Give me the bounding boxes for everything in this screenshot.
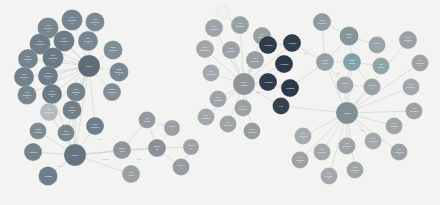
node-circle[interactable] xyxy=(403,79,420,96)
node-circle[interactable] xyxy=(316,53,334,71)
node-circle[interactable] xyxy=(103,83,121,101)
node-circle[interactable] xyxy=(283,34,301,52)
graph-node[interactable]: Pixelannotation xyxy=(231,16,249,34)
graph-node[interactable]: Pixelannotation xyxy=(235,100,252,117)
node-circle[interactable] xyxy=(110,63,129,82)
graph-node[interactable]: Image 2 xyxy=(64,144,86,166)
node-circle[interactable] xyxy=(391,144,408,161)
graph-node[interactable]: Videoannotation12 xyxy=(42,84,62,104)
graph-node[interactable]: Testannotation xyxy=(313,13,331,31)
node-circle[interactable] xyxy=(235,100,252,117)
graph-node[interactable]: Annotation xyxy=(275,55,293,73)
graph-node[interactable]: Videoannotation10 xyxy=(38,66,58,86)
graph-node[interactable]: Videoannotation15 xyxy=(63,101,82,120)
node-circle[interactable] xyxy=(14,67,34,87)
graph-node[interactable]: Sub cell1 xyxy=(164,120,180,136)
node-circle[interactable] xyxy=(314,144,331,161)
graph-node[interactable]: Annotation xyxy=(259,73,277,91)
graph-node[interactable]: Videoannotation11 xyxy=(18,86,37,105)
node-circle[interactable] xyxy=(273,98,290,115)
graph-node[interactable]: Annotation xyxy=(24,143,42,161)
graph-node[interactable]: Sub cell2 xyxy=(337,77,354,94)
node-circle[interactable] xyxy=(203,65,220,82)
graph-node[interactable]: Videoannotation7 xyxy=(18,49,38,69)
graph-node[interactable]: Pixelannotation13 xyxy=(295,128,312,145)
node-circle[interactable] xyxy=(321,168,338,185)
graph-node[interactable]: Pixelannotation7 xyxy=(365,133,382,150)
node-circle[interactable] xyxy=(173,159,190,176)
graph-node[interactable]: Pixelannotation xyxy=(196,40,214,58)
node-circle[interactable] xyxy=(183,139,199,155)
graph-node[interactable]: Sub cell2 xyxy=(173,159,190,176)
graph-node[interactable]: Sub cell1 xyxy=(369,37,386,54)
graph-node[interactable]: Pixelannotation xyxy=(246,51,264,69)
node-circle[interactable] xyxy=(64,144,86,166)
node-circle[interactable] xyxy=(78,55,100,77)
node-circle[interactable] xyxy=(164,120,180,136)
node-circle[interactable] xyxy=(340,27,359,46)
graph-node[interactable]: Sub cell3 xyxy=(183,139,199,155)
graph-node[interactable]: Bucketcount xyxy=(113,141,131,159)
node-circle[interactable] xyxy=(196,40,214,58)
graph-node[interactable]: Annotation xyxy=(281,79,299,97)
graph-node[interactable]: Sub cell3 xyxy=(364,79,381,96)
graph-node[interactable]: Imageannotation2 xyxy=(110,63,129,82)
graph-node[interactable]: Pixelannotation2 xyxy=(412,55,429,72)
node-circle[interactable] xyxy=(399,31,417,49)
node-circle[interactable] xyxy=(38,66,58,86)
graph-node[interactable]: Datasetlist xyxy=(148,139,166,157)
graph-node[interactable]: Annotation xyxy=(259,36,277,54)
node-circle[interactable] xyxy=(67,83,86,102)
graph-node[interactable]: Videoannotation14 xyxy=(40,103,58,121)
node-circle[interactable] xyxy=(343,53,361,71)
node-circle[interactable] xyxy=(369,37,386,54)
graph-node[interactable]: Videoannotation6 xyxy=(78,31,98,51)
node-circle[interactable] xyxy=(86,13,105,32)
graph-node[interactable]: Task orAnnotation xyxy=(233,73,255,95)
graph-node[interactable]: Videoannotation xyxy=(86,117,104,135)
node-circle[interactable] xyxy=(406,103,423,120)
graph-node[interactable]: Videoannotation xyxy=(58,125,75,142)
graph-node[interactable]: Videoannotation2 xyxy=(62,10,83,31)
node-circle[interactable] xyxy=(231,16,249,34)
node-circle[interactable] xyxy=(58,125,75,142)
node-circle[interactable] xyxy=(246,51,264,69)
node-circle[interactable] xyxy=(337,77,354,94)
node-circle[interactable] xyxy=(259,36,277,54)
node-circle[interactable] xyxy=(259,73,277,91)
graph-node[interactable]: Pixelannotation9 xyxy=(314,144,331,161)
node-circle[interactable] xyxy=(336,102,358,124)
node-circle[interactable] xyxy=(198,109,215,126)
graph-node[interactable]: Pixelannotation xyxy=(220,116,237,133)
node-circle[interactable] xyxy=(63,101,82,120)
graph-node[interactable]: Pixelannotation5 xyxy=(386,118,403,135)
graph-node[interactable]: Imageannotation3 xyxy=(103,83,121,101)
graph-node[interactable]: Image 1 xyxy=(78,55,100,77)
node-circle[interactable] xyxy=(220,116,237,133)
graph-node[interactable]: Videoannotation xyxy=(244,123,261,140)
node-circle[interactable] xyxy=(295,128,312,145)
node-circle[interactable] xyxy=(42,84,62,104)
node-circle[interactable] xyxy=(281,79,299,97)
graph-node[interactable]: Videoannotation8 xyxy=(43,48,64,69)
node-circle[interactable] xyxy=(365,133,382,150)
graph-node[interactable]: Pixelannotation10 xyxy=(292,152,309,169)
node-circle[interactable] xyxy=(78,31,98,51)
node-circle[interactable] xyxy=(24,143,42,161)
graph-node[interactable]: Pixelannotation8 xyxy=(339,138,356,155)
graph-node[interactable]: Pixelannotation xyxy=(198,109,215,126)
node-circle[interactable] xyxy=(233,73,255,95)
node-circle[interactable] xyxy=(386,118,403,135)
node-circle[interactable] xyxy=(275,55,293,73)
node-circle[interactable] xyxy=(30,123,47,140)
node-circle[interactable] xyxy=(62,10,83,31)
graph-node[interactable]: Pixelannotation6 xyxy=(391,144,408,161)
graph-node[interactable]: ROIdataset xyxy=(373,58,390,75)
node-circle[interactable] xyxy=(210,91,227,108)
node-circle[interactable] xyxy=(104,41,123,60)
node-circle[interactable] xyxy=(43,48,64,69)
node-circle[interactable] xyxy=(364,79,381,96)
graph-node[interactable]: Pixelannotation1 xyxy=(399,31,417,49)
node-circle[interactable] xyxy=(148,139,166,157)
graph-node[interactable]: Bucketcount xyxy=(316,53,334,71)
